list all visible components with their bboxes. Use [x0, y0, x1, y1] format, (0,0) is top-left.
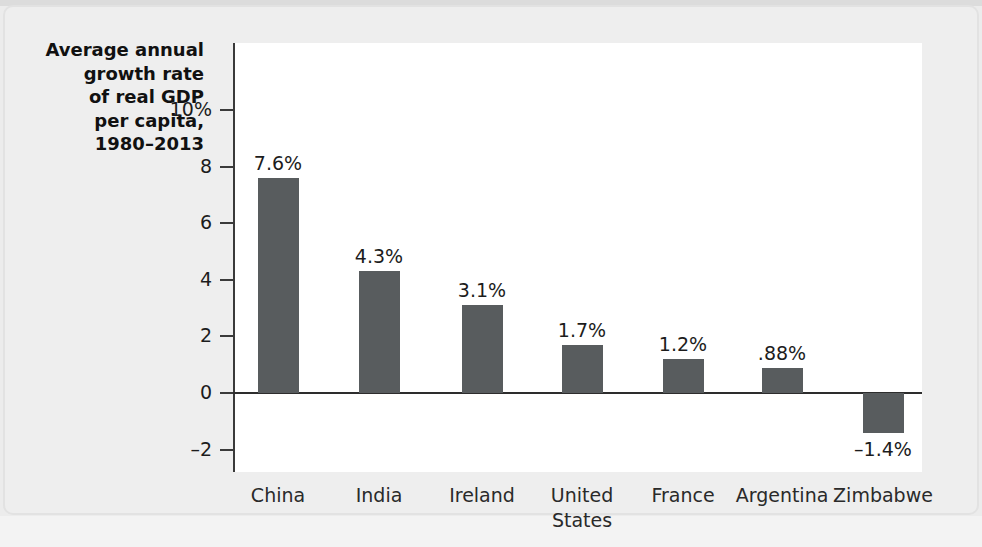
y-tick-label: 6 [108, 211, 212, 233]
y-tick-label: –2 [108, 438, 212, 460]
paper-bottom-band [0, 516, 982, 547]
y-tick-label: 0 [108, 381, 212, 403]
bar-value-label: 1.7% [537, 319, 627, 341]
bar-value-label: .88% [737, 342, 827, 364]
y-tick-mark [220, 335, 233, 337]
y-tick-mark [220, 449, 233, 451]
y-tick-label: 8 [108, 155, 212, 177]
bar-value-label: 7.6% [233, 152, 323, 174]
bar [762, 368, 803, 393]
y-tick-mark [220, 166, 233, 168]
y-tick-mark [220, 109, 233, 111]
y-tick-mark [220, 279, 233, 281]
bar-value-label: 1.2% [638, 333, 728, 355]
bar-value-label: 3.1% [437, 279, 527, 301]
bar [863, 393, 904, 433]
y-tick-label: 2 [108, 324, 212, 346]
y-tick-mark [220, 392, 233, 394]
x-category-label: Zimbabwe [821, 483, 945, 508]
y-tick-label: 10% [108, 98, 212, 120]
y-tick-mark [220, 222, 233, 224]
bar-value-label: 4.3% [334, 245, 424, 267]
y-axis-title-line-5: 1980–2013 [14, 132, 204, 156]
y-axis-title-line-1: Average annual [14, 38, 204, 62]
y-axis-line [233, 43, 235, 472]
bar [359, 271, 400, 393]
bar [562, 345, 603, 393]
y-axis-title-line-2: growth rate [14, 62, 204, 86]
chart-figure: Average annual growth rate of real GDP p… [0, 0, 982, 547]
y-tick-label: 4 [108, 268, 212, 290]
bar [663, 359, 704, 393]
bar [462, 305, 503, 393]
y-axis-title: Average annual growth rate of real GDP p… [14, 38, 204, 156]
bar-value-label: –1.4% [838, 438, 928, 460]
bar [258, 178, 299, 393]
